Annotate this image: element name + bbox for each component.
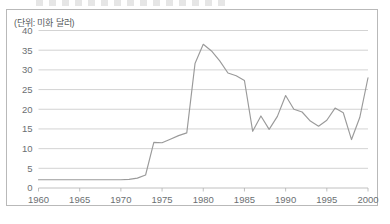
y-tick-label-5: 5 [27, 163, 32, 174]
chart-figure: (단위: 미화 달러) 0510152025303540 19601965197… [0, 0, 390, 224]
y-tick-label-0: 0 [27, 182, 32, 193]
x-tick-label-2000: 2000 [357, 194, 378, 205]
y-tick-label-25: 25 [22, 84, 33, 95]
x-tick-label-1995: 1995 [316, 194, 337, 205]
line-chart-svg: 0510152025303540 19601965197019751980198… [0, 0, 390, 224]
x-axis-tick-label-group: 196019651970197519801985199019952000 [28, 194, 379, 205]
gridline-group [39, 31, 369, 189]
x-tick-label-1975: 1975 [151, 194, 172, 205]
plot-area: 0510152025303540 19601965197019751980198… [0, 0, 390, 224]
x-tick-label-1970: 1970 [110, 194, 131, 205]
y-tick-label-20: 20 [22, 104, 33, 115]
y-tick-label-10: 10 [22, 143, 33, 154]
x-tick-label-1960: 1960 [28, 194, 49, 205]
y-tick-label-40: 40 [22, 25, 33, 36]
x-axis-tickmark-group [39, 188, 369, 192]
x-tick-label-1965: 1965 [69, 194, 90, 205]
y-tick-label-35: 35 [22, 45, 33, 56]
y-tick-label-30: 30 [22, 64, 33, 75]
series-line-oil-price [39, 44, 369, 179]
y-tick-label-15: 15 [22, 123, 33, 134]
x-tick-label-1980: 1980 [193, 194, 214, 205]
x-tick-label-1990: 1990 [275, 194, 296, 205]
y-axis-tick-label-group: 0510152025303540 [22, 25, 33, 194]
x-tick-label-1985: 1985 [234, 194, 255, 205]
